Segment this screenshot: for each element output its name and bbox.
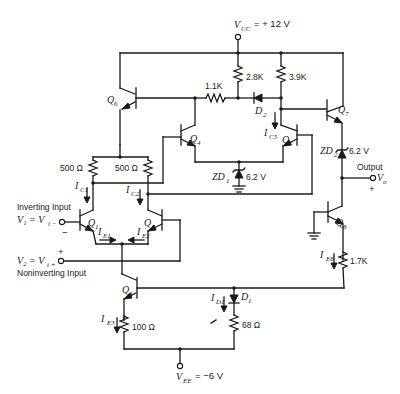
svg-text:+: + — [58, 246, 64, 257]
ground-q8 — [308, 212, 320, 239]
transistor-q6: Q 6 — [107, 53, 136, 145]
svg-text:I: I — [97, 226, 102, 237]
noninverting-input-label: V₂ = V i + + Noninverting Input — [17, 246, 87, 278]
svg-text:Noninverting Input: Noninverting Input — [17, 268, 87, 278]
current-ie1: I E1 — [97, 226, 116, 243]
transistor-q7: Q 7 — [327, 100, 349, 150]
svg-text:2: 2 — [151, 223, 155, 231]
svg-text:D1: D1 — [215, 298, 225, 306]
zd1-value: 6.2 V — [246, 172, 266, 182]
svg-text:5: 5 — [289, 140, 293, 148]
svg-text:C1: C1 — [80, 186, 88, 194]
r-2-8k-label: 2.8K — [246, 72, 264, 82]
current-ie3: I E3 — [100, 313, 120, 333]
svg-text:I: I — [263, 127, 268, 138]
current-id1: I D1 — [210, 292, 227, 312]
svg-text:6.2 V: 6.2 V — [349, 146, 369, 156]
svg-text:E2: E2 — [141, 232, 150, 240]
svg-text:8: 8 — [343, 223, 347, 231]
svg-text:1.7K: 1.7K — [350, 256, 368, 266]
output-terminal[interactable] — [370, 175, 375, 180]
transistor-q8: Q 8 — [328, 202, 347, 260]
zd1-label: ZD — [212, 171, 226, 182]
svg-text:I: I — [210, 292, 215, 303]
svg-text:6: 6 — [114, 100, 118, 108]
resistor-100: 100 Ω — [120, 316, 155, 349]
svg-text:o: o — [383, 178, 387, 186]
svg-text:3: 3 — [128, 290, 133, 298]
svg-text:C2: C2 — [131, 190, 140, 198]
zener-zd1: ZD 1 6.2 V — [212, 162, 266, 192]
svg-text:I: I — [125, 184, 130, 195]
svg-text:E3: E3 — [106, 319, 115, 327]
svg-text:Inverting Input: Inverting Input — [17, 202, 72, 212]
d2-label: D — [254, 105, 263, 116]
circuit-schematic: V CC = + 12 V Q 6 1.1K 2.8K D — [0, 0, 400, 394]
r-1-1k-label: 1.1K — [205, 81, 223, 91]
svg-text:+: + — [369, 183, 375, 194]
r-3-9k-label: 3.9K — [289, 72, 307, 82]
svg-text:500 Ω: 500 Ω — [115, 163, 138, 173]
vee-supply: V EE = −6 V — [176, 349, 224, 385]
svg-text:= −6 V: = −6 V — [195, 370, 224, 381]
vcc-supply: V CC = + 12 V — [234, 18, 291, 53]
current-ie2: I E2 — [128, 226, 150, 243]
inverting-input-terminal[interactable] — [59, 219, 64, 224]
svg-text:68 Ω: 68 Ω — [242, 320, 260, 330]
svg-text:EE: EE — [182, 377, 192, 385]
current-ic2: I C2 — [125, 184, 143, 205]
resistor-2-8k: 2.8K — [234, 53, 264, 98]
svg-text:2: 2 — [263, 111, 267, 119]
resistor-3-9k: 3.9K — [277, 53, 307, 98]
transistor-q5: Q 5 — [281, 109, 297, 162]
svg-text:E1: E1 — [102, 232, 111, 240]
resistor-1-1k: 1.1K — [195, 81, 238, 102]
svg-text:ZD: ZD — [320, 145, 334, 156]
svg-text:2: 2 — [334, 151, 338, 159]
noninverting-input-terminal[interactable] — [58, 258, 63, 263]
svg-text:V₂ = V: V₂ = V — [17, 255, 46, 266]
vee-terminal — [177, 363, 182, 368]
svg-text:−: − — [62, 227, 68, 238]
svg-text:C5: C5 — [269, 133, 278, 141]
resistor-500-right: 500 Ω — [115, 157, 152, 194]
transistor-q3: Q 3 — [122, 274, 137, 320]
current-ie8: I E8 — [319, 249, 337, 269]
svg-text:1: 1 — [248, 297, 252, 305]
vcc-value: = + 12 V — [254, 18, 291, 29]
svg-text:I: I — [136, 226, 141, 237]
svg-text:V₁ = V: V₁ = V — [17, 214, 46, 225]
transistor-q4: Q 4 — [181, 98, 201, 162]
resistor-500-left: 500 Ω — [60, 157, 97, 183]
current-ic1: I C1 — [74, 180, 90, 203]
svg-text:Output: Output — [357, 162, 383, 172]
svg-text:1: 1 — [226, 177, 230, 185]
svg-text:I: I — [74, 180, 79, 191]
resistor-68: 68 Ω — [230, 315, 260, 349]
vcc-sub: CC — [241, 25, 251, 33]
svg-text:7: 7 — [345, 110, 349, 118]
svg-text:I: I — [100, 313, 105, 324]
svg-text:100 Ω: 100 Ω — [132, 322, 155, 332]
svg-text:4: 4 — [197, 139, 201, 147]
svg-text:500 Ω: 500 Ω — [60, 163, 83, 173]
diode-d1: D 1 — [229, 288, 252, 315]
svg-text:E8: E8 — [325, 255, 334, 263]
svg-text:I: I — [319, 249, 324, 260]
vcc-terminal — [235, 34, 240, 39]
svg-text:i −: i − — [48, 220, 57, 228]
